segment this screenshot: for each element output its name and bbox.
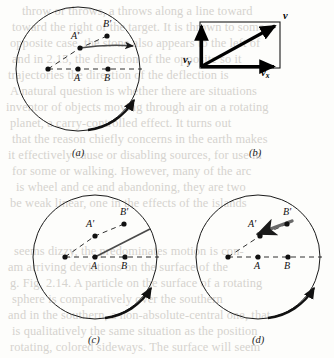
panel-d-rotation-arrow <box>268 288 314 318</box>
panel-c-point-A-prime <box>92 233 97 238</box>
panel-b-label-vx: vx <box>261 67 269 80</box>
panel-a-label-B: B <box>104 72 110 83</box>
panel-c-rotated-radius-dashed <box>65 224 124 257</box>
panel-c-label-B: B <box>121 260 127 271</box>
panel-d-point-B-prime <box>284 221 289 226</box>
panel-a-point-B <box>105 66 110 71</box>
panel-d-label-A-prime: A' <box>248 218 256 229</box>
panel-a-rotation-arrow <box>88 100 134 130</box>
panel-b-label-vy: vy <box>183 54 191 67</box>
panel-c-label-A: A <box>91 260 97 271</box>
panel-caption-c: (c) <box>88 334 100 345</box>
panel-c-label-A-prime: A' <box>86 218 94 229</box>
panel-a-label-A: A <box>74 72 80 83</box>
panel-c-rotation-arrow <box>105 288 151 318</box>
panel-a-label-B-prime: B' <box>103 18 111 29</box>
panel-caption-a: (a) <box>72 147 84 158</box>
panel-b-artwork <box>200 22 280 68</box>
panel-d-point-A <box>255 254 260 259</box>
panel-a-point-center <box>45 66 50 71</box>
panel-d-label-B-prime: B' <box>283 206 291 217</box>
panel-d-artwork <box>196 195 322 319</box>
panel-c-trajectory-line <box>95 229 150 257</box>
panel-d-point-A-prime <box>257 233 262 238</box>
panel-d-point-center <box>225 254 230 259</box>
panel-caption-d: (d) <box>252 334 264 345</box>
panel-c-artwork <box>33 195 159 319</box>
panel-a-artwork <box>16 7 142 131</box>
panel-b-vector-v <box>201 26 275 67</box>
panel-d-label-B: B <box>284 260 290 271</box>
panel-a-point-B-prime <box>104 33 109 38</box>
panel-a-motion-arrow <box>80 45 133 48</box>
panel-c-point-center <box>62 254 67 259</box>
panel-a-label-A-prime: A' <box>71 30 79 41</box>
panel-b-label-v: v <box>283 10 288 21</box>
panel-a-point-A-prime <box>77 45 82 50</box>
panel-c-point-A <box>92 254 97 259</box>
physics-figure: throw or throws, a throws along a line t… <box>0 0 334 358</box>
panel-d-rotated-radius-dashed <box>228 224 287 257</box>
panel-c-label-B-prime: B' <box>120 206 128 217</box>
panel-a-point-A <box>75 66 80 71</box>
panel-c-point-B <box>122 254 127 259</box>
panel-d-label-A: A <box>254 260 260 271</box>
panel-caption-b: (b) <box>249 147 261 158</box>
panel-c-point-B-prime <box>121 221 126 226</box>
figure-artwork <box>0 0 334 358</box>
panel-d-point-B <box>285 254 290 259</box>
